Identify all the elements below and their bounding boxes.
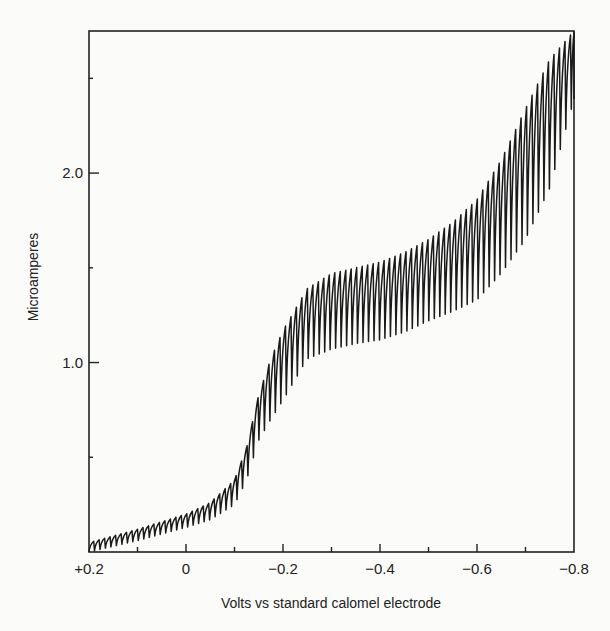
x-tick-label: −0.8 <box>559 560 589 577</box>
x-tick-label: −0.6 <box>462 560 492 577</box>
y-axis-ticks: 1.02.0 <box>62 78 99 457</box>
x-tick-label: +0.2 <box>74 560 104 577</box>
y-tick-label: 2.0 <box>62 164 83 181</box>
plot-frame <box>89 31 574 552</box>
x-axis-ticks: +0.20−0.2−0.4−0.6−0.8 <box>74 544 589 577</box>
x-axis-title: Volts vs standard calomel electrode <box>221 595 441 611</box>
plot-border <box>89 31 574 552</box>
y-axis-title: Microamperes <box>25 233 41 322</box>
current-trace <box>89 32 574 552</box>
y-tick-label: 1.0 <box>62 354 83 371</box>
x-tick-label: 0 <box>182 560 190 577</box>
x-tick-label: −0.4 <box>365 560 395 577</box>
x-tick-label: −0.2 <box>268 560 298 577</box>
polarogram-chart: +0.20−0.2−0.4−0.6−0.8 1.02.0 Volts vs st… <box>0 0 610 631</box>
